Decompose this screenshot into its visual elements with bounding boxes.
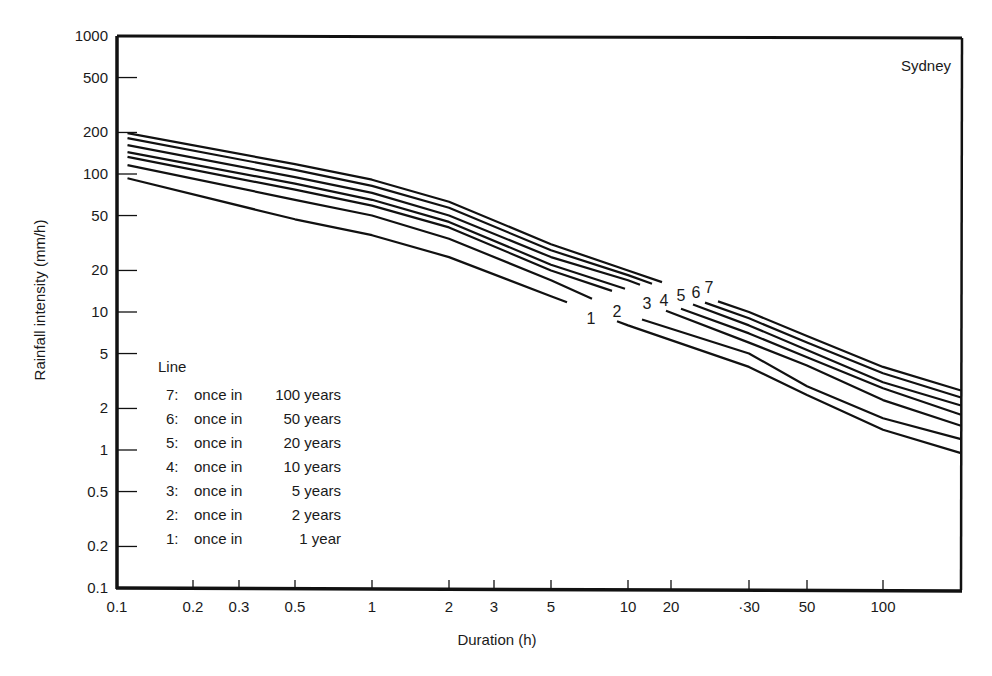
plot-frame (116, 36, 962, 591)
x-tick-label: 2 (445, 598, 453, 615)
curve-number-label: 2 (613, 303, 622, 320)
x-tick-label: 10 (620, 598, 637, 615)
legend-item: 2:once in2 years (166, 506, 341, 523)
curve-line-5 (693, 305, 961, 406)
curve-number-label: 6 (692, 284, 701, 301)
x-tick-label: 20 (663, 598, 680, 615)
legend-period: 20 years (283, 434, 341, 451)
x-tick-label: 5 (547, 598, 555, 615)
legend-item: 5:once in20 years (166, 434, 341, 451)
curve-number-label: 4 (660, 292, 669, 309)
legend-text: once in (194, 506, 242, 523)
curve-number-label: 7 (705, 279, 714, 296)
legend-text: once in (194, 458, 242, 475)
x-tick-label: 0.3 (229, 598, 250, 615)
legend-line-number: 5: (166, 434, 179, 451)
legend-item: 1:once in1 year (166, 530, 341, 547)
curves (128, 133, 962, 453)
curve-line-1 (617, 321, 961, 453)
curve-number-label: 3 (643, 295, 652, 312)
curve-line-3 (128, 157, 613, 291)
x-tick-label: ·30 (738, 598, 760, 615)
y-tick-label: 500 (83, 69, 108, 86)
x-axis: 0.10.20.30.512351020·3050100 (107, 580, 896, 615)
legend-period: 1 year (299, 530, 341, 547)
curve-line-6 (705, 303, 961, 398)
y-tick-label: 20 (91, 261, 108, 278)
curve-number-label: 1 (587, 310, 596, 327)
legend-line-number: 7: (166, 386, 179, 403)
x-tick-label: 50 (799, 598, 816, 615)
y-tick-label: 100 (83, 165, 108, 182)
x-tick-label: 100 (870, 598, 895, 615)
y-axis: 10005002001005020105210.50.20.1 (75, 27, 137, 596)
legend-item: 7:once in100 years (166, 386, 341, 403)
y-axis-title: Rainfall intensity (mm/h) (31, 220, 48, 381)
legend: Line 7:once in100 years6:once in50 years… (158, 358, 341, 547)
legend-line-number: 4: (166, 458, 179, 475)
legend-text: once in (194, 530, 242, 547)
legend-period: 5 years (292, 482, 341, 499)
y-tick-label: 1000 (75, 27, 108, 44)
y-tick-label: 0.1 (87, 579, 108, 596)
legend-line-number: 2: (166, 506, 179, 523)
curve-line-2 (642, 320, 961, 440)
x-tick-label: 3 (490, 598, 498, 615)
curve-line-7 (718, 301, 961, 390)
legend-item: 4:once in10 years (166, 458, 341, 475)
legend-item: 3:once in5 years (166, 482, 341, 499)
x-tick-label: 0.2 (183, 598, 204, 615)
legend-period: 100 years (275, 386, 341, 403)
legend-text: once in (194, 482, 242, 499)
curve-line-3 (666, 311, 961, 426)
curve-labels: 7654321 (587, 279, 714, 327)
rainfall-idf-chart: 10005002001005020105210.50.20.1 0.10.20.… (0, 0, 992, 676)
legend-text: once in (194, 410, 242, 427)
legend-period: 50 years (283, 410, 341, 427)
legend-line-number: 3: (166, 482, 179, 499)
legend-period: 2 years (292, 506, 341, 523)
y-tick-label: 0.2 (87, 537, 108, 554)
y-tick-label: 2 (100, 399, 108, 416)
y-tick-label: 50 (91, 207, 108, 224)
curve-line-4 (681, 309, 961, 415)
curve-number-label: 5 (677, 287, 686, 304)
y-tick-label: 0.5 (87, 483, 108, 500)
legend-period: 10 years (283, 458, 341, 475)
legend-item: 6:once in50 years (166, 410, 341, 427)
legend-line-number: 1: (166, 530, 179, 547)
city-label: Sydney (901, 57, 952, 74)
legend-line-number: 6: (166, 410, 179, 427)
y-tick-label: 5 (100, 345, 108, 362)
y-tick-label: 200 (83, 123, 108, 140)
curve-line-1 (128, 178, 568, 302)
y-tick-label: 1 (100, 441, 108, 458)
legend-title: Line (158, 358, 186, 375)
x-tick-label: 0.1 (107, 598, 128, 615)
legend-text: once in (194, 434, 242, 451)
x-tick-label: 1 (368, 598, 376, 615)
x-tick-label: 0.5 (285, 598, 306, 615)
x-axis-title: Duration (h) (457, 631, 536, 648)
legend-text: once in (194, 386, 242, 403)
y-tick-label: 10 (91, 303, 108, 320)
